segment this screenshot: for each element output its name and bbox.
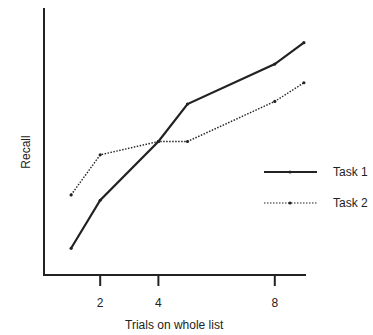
line-chart [0, 0, 373, 335]
x-axis-ticks [100, 275, 275, 286]
legend-marker [288, 201, 291, 204]
data-point [70, 247, 73, 250]
series-line-task-1 [71, 43, 304, 249]
data-point [99, 199, 102, 202]
y-axis-label: Recall [19, 135, 33, 168]
x-tick-label: 4 [155, 296, 162, 310]
x-tick-label: 2 [97, 296, 104, 310]
data-point [186, 103, 189, 106]
data-point [302, 81, 305, 84]
data-point [273, 62, 276, 65]
data-point [273, 100, 276, 103]
legend-label-task-2: Task 2 [333, 196, 368, 210]
data-point [99, 153, 102, 156]
series-lines [70, 41, 306, 250]
x-axis-label: Trials on whole list [125, 318, 223, 332]
data-point [186, 140, 189, 143]
legend-label-task-1: Task 1 [333, 165, 368, 179]
legend-lines [264, 170, 317, 204]
legend-marker [288, 170, 291, 173]
x-tick-label: 8 [271, 296, 278, 310]
series-line-task-2 [71, 83, 304, 195]
data-point [302, 41, 305, 44]
data-point [70, 193, 73, 196]
data-point [157, 140, 160, 143]
